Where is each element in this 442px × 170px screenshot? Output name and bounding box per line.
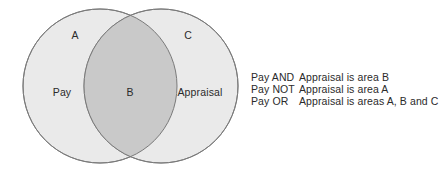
legend-operator-not: Pay NOT: [251, 83, 299, 95]
venn-set-label-appraisal: Appraisal: [177, 86, 222, 98]
venn-set-label-pay: Pay: [53, 86, 72, 98]
legend-description-or: Appraisal is areas A, B and C: [299, 95, 438, 107]
venn-region-label-a: A: [71, 29, 78, 41]
legend-operator-and: Pay AND: [251, 71, 299, 83]
venn-region-label-c: C: [184, 29, 192, 41]
venn-diagram-figure: A C Pay B Appraisal Pay AND Appraisal is…: [0, 0, 442, 170]
legend-row-and: Pay AND Appraisal is area B: [251, 71, 441, 83]
legend-operator-or: Pay OR: [251, 95, 299, 107]
venn-region-label-b: B: [126, 86, 133, 98]
legend-description-not: Appraisal is area A: [299, 83, 388, 95]
venn-legend: Pay AND Appraisal is area B Pay NOT Appr…: [251, 71, 441, 107]
legend-row-not: Pay NOT Appraisal is area A: [251, 83, 441, 95]
legend-description-and: Appraisal is area B: [299, 71, 389, 83]
legend-row-or: Pay OR Appraisal is areas A, B and C: [251, 95, 441, 107]
